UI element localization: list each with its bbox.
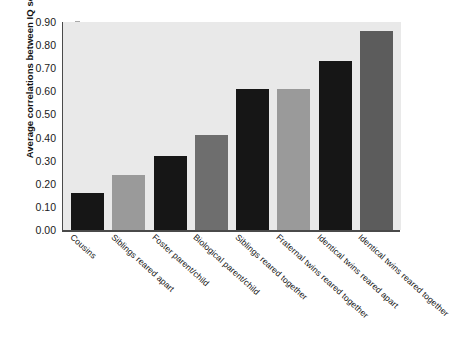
y-tick-label: 0.80 bbox=[18, 39, 56, 51]
y-tick-label: 0.70 bbox=[18, 62, 56, 74]
bar-slot bbox=[273, 22, 314, 230]
y-tick-label: 0.90 bbox=[18, 16, 56, 28]
bar-slot bbox=[356, 22, 397, 230]
bar-slot bbox=[108, 22, 149, 230]
y-tick-label: 0.60 bbox=[18, 85, 56, 97]
bar-slot bbox=[150, 22, 191, 230]
bar-3 bbox=[154, 156, 187, 230]
y-tick-label: 0.00 bbox=[18, 224, 56, 236]
bar-slot bbox=[315, 22, 356, 230]
bar-1 bbox=[71, 193, 104, 230]
bar-2 bbox=[112, 175, 145, 230]
x-axis-labels: CousinsSiblings reared apartFoster paren… bbox=[62, 232, 400, 362]
plot-area bbox=[62, 22, 401, 230]
bar-series bbox=[63, 22, 401, 230]
y-axis-ticks: 0.900.800.700.600.500.400.300.200.100.00 bbox=[18, 0, 56, 362]
y-tick-label: 0.10 bbox=[18, 201, 56, 213]
x-tick-label: Identical twins reared apart bbox=[315, 232, 400, 310]
y-tick-label: 0.30 bbox=[18, 155, 56, 167]
bar-slot bbox=[232, 22, 273, 230]
bar-slot bbox=[191, 22, 232, 230]
bar-7 bbox=[319, 61, 352, 230]
x-tick-label: Siblings reared together bbox=[233, 232, 309, 302]
bar-8 bbox=[360, 31, 393, 230]
y-tick-label: 0.20 bbox=[18, 178, 56, 190]
bar-slot bbox=[67, 22, 108, 230]
x-tick-label: Cousins bbox=[68, 232, 98, 261]
bar-4 bbox=[195, 135, 228, 230]
bar-5 bbox=[236, 89, 269, 230]
bar-6 bbox=[277, 89, 310, 230]
y-tick-label: 0.40 bbox=[18, 132, 56, 144]
chart-figure: Average correlations between IQ scores 0… bbox=[0, 0, 463, 362]
y-tick-label: 0.50 bbox=[18, 108, 56, 120]
